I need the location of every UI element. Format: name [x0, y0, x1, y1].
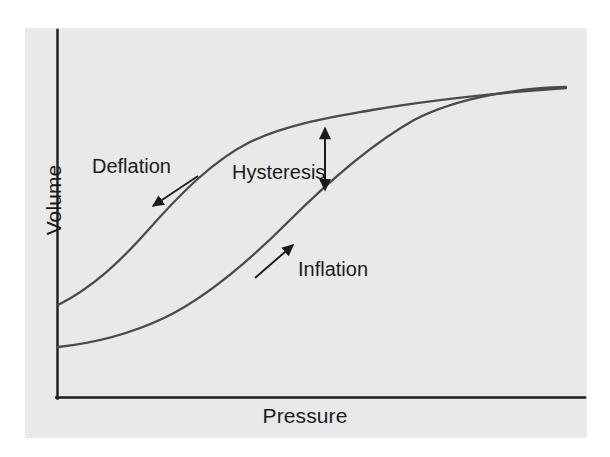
- axis-lines: [56, 30, 585, 399]
- inflation-arrow: [255, 245, 293, 278]
- inflation-curve: [58, 87, 566, 347]
- hysteresis-label: Hysteresis: [232, 161, 325, 184]
- hysteresis-chart: [0, 0, 610, 457]
- deflation-label: Deflation: [92, 155, 171, 178]
- inflation-label: Inflation: [298, 258, 368, 281]
- figure-root: Volume Pressure Deflation Hysteresis Inf…: [0, 0, 610, 457]
- x-axis-label: Pressure: [0, 404, 610, 428]
- y-axis-label: Volume: [42, 140, 66, 260]
